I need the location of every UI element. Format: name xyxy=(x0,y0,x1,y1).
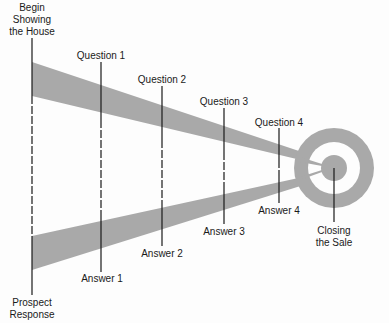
question-label-3: Question 3 xyxy=(194,96,254,108)
answer-label-3: Answer 3 xyxy=(196,226,252,238)
answer-label-1: Answer 1 xyxy=(74,273,130,285)
start-label: Begin Showing the House xyxy=(6,2,58,38)
sales-funnel-diagram: Begin Showing the House Prospect Respons… xyxy=(0,0,389,323)
question-label-2: Question 2 xyxy=(132,74,192,86)
diagram-graphics xyxy=(0,0,389,323)
end-label: Prospect Response xyxy=(6,297,58,321)
answer-label-4: Answer 4 xyxy=(251,205,307,217)
goal-label: Closing the Sale xyxy=(308,225,360,249)
question-label-1: Question 1 xyxy=(71,50,131,62)
question-label-4: Question 4 xyxy=(249,117,309,129)
answer-label-2: Answer 2 xyxy=(134,248,190,260)
